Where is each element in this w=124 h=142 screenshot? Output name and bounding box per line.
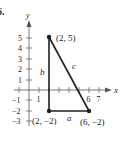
vertex-point (47, 109, 51, 113)
y-axis-arrow-icon (27, 20, 32, 27)
y-axis-label: y (25, 11, 30, 20)
y-tick-label: 5 (18, 34, 22, 43)
problem-number: 6. (0, 6, 5, 17)
triangle (49, 37, 89, 111)
x-tick-label: 1 (37, 95, 41, 104)
side-label-b: b (40, 67, 45, 77)
x-tick-label: 6 (87, 95, 91, 104)
triangle-diagram: 6. x y 1 6 7 5 4 3 2 1 −1 −2 −3 (0, 0, 124, 142)
y-tick-label: −2 (12, 107, 21, 116)
y-tick-label: −3 (12, 117, 21, 126)
x-axis-arrow-icon (105, 88, 112, 93)
vertex-point (87, 109, 91, 113)
vertex-point (47, 35, 51, 39)
y-tick-label: 1 (18, 76, 22, 85)
y-tick-label: 2 (18, 65, 22, 74)
y-tick-label: −1 (12, 96, 21, 105)
side-c (49, 37, 89, 111)
point-label: (2, 5) (56, 33, 76, 43)
side-label-c: c (72, 61, 76, 71)
point-label: (6, −2) (80, 117, 105, 127)
x-axis-label: x (113, 85, 118, 95)
x-tick-label: 7 (97, 95, 101, 104)
y-tick-label: 3 (18, 55, 22, 64)
y-tick-label: 4 (18, 44, 22, 53)
point-label: (2, −2) (32, 116, 57, 126)
side-label-a: a (67, 113, 72, 123)
